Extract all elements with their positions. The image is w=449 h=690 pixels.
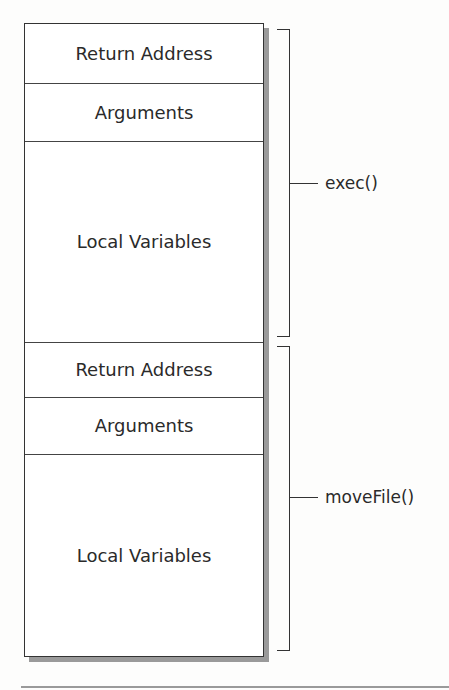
frame1-return-address: Return Address	[25, 24, 263, 84]
cell-label: Arguments	[95, 415, 194, 436]
frame2-bracket	[277, 346, 290, 651]
frame1-bracket-tick	[290, 183, 318, 184]
stack-diagram: Return Address Arguments Local Variables…	[24, 23, 264, 657]
frame2-local-variables: Local Variables	[25, 454, 263, 656]
cell-label: Arguments	[95, 102, 194, 123]
frame2-function-label: moveFile()	[325, 487, 414, 507]
frame1-arguments: Arguments	[25, 83, 263, 142]
cell-label: Local Variables	[77, 545, 212, 566]
cell-label: Return Address	[75, 359, 212, 380]
frame2-return-address: Return Address	[25, 342, 263, 398]
frame1-bracket	[277, 29, 290, 337]
frame2-bracket-tick	[290, 497, 318, 498]
frame2-arguments: Arguments	[25, 397, 263, 455]
frame1-local-variables: Local Variables	[25, 141, 263, 343]
cell-label: Return Address	[75, 43, 212, 64]
frame1-function-label: exec()	[325, 173, 378, 193]
bottom-rule	[21, 686, 449, 688]
cell-label: Local Variables	[77, 231, 212, 252]
